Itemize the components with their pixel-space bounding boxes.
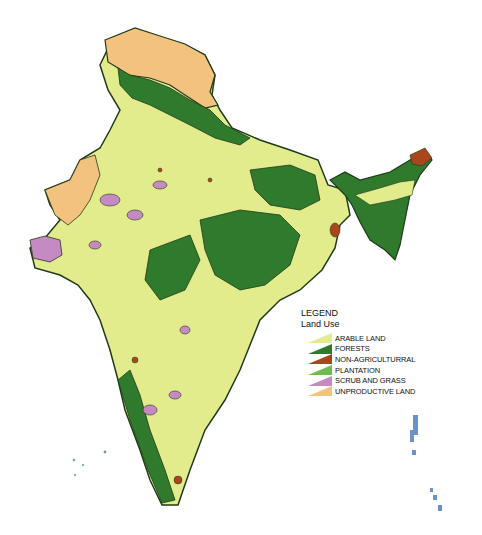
lakshadweep-islands (73, 451, 107, 476)
legend-swatch-icon (300, 376, 332, 386)
legend-swatch-icon (300, 333, 332, 343)
legend-item-label: PLANTATION (335, 366, 380, 375)
legend-item: FORESTS (300, 344, 415, 355)
legend-item-label: SCRUB AND GRASS (335, 376, 406, 385)
legend-swatch-icon (300, 354, 332, 364)
legend-item: UNPRODUCTIVE LAND (300, 386, 415, 397)
legend: LEGEND Land Use ARABLE LANDFORESTSNON-AG… (300, 308, 415, 397)
legend-swatch-icon (300, 344, 332, 354)
legend-item-label: NON-AGRICULTURRAL (335, 355, 415, 364)
legend-item-label: ARABLE LAND (335, 334, 386, 343)
legend-swatch-icon (300, 365, 332, 375)
legend-item: SCRUB AND GRASS (300, 375, 415, 386)
legend-item: PLANTATION (300, 365, 415, 376)
legend-subtitle: Land Use (301, 319, 415, 330)
legend-swatch-icon (300, 386, 332, 396)
legend-item: ARABLE LAND (300, 333, 415, 344)
legend-item-label: FORESTS (335, 344, 370, 353)
legend-title: LEGEND (301, 308, 415, 319)
india-land-use-map (0, 0, 482, 535)
legend-item-label: UNPRODUCTIVE LAND (335, 387, 415, 396)
legend-item: NON-AGRICULTURRAL (300, 354, 415, 365)
kutch-scrub (30, 236, 62, 262)
andaman-nicobar-islands (410, 415, 442, 511)
